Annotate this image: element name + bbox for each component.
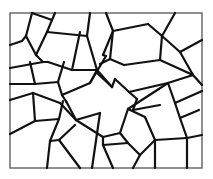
polygon-edge — [36, 55, 43, 62]
polygon-edge — [10, 62, 43, 68]
polygon-edge — [160, 36, 162, 60]
polygon-edge — [35, 119, 59, 121]
polygon-edge — [33, 93, 35, 121]
polygon-edge — [47, 20, 52, 32]
polygon-edge — [87, 36, 97, 70]
polygon-edge — [128, 143, 140, 155]
polygon-edge — [58, 82, 62, 95]
polygon-edge — [10, 41, 22, 45]
polygon-edge — [103, 145, 113, 168]
polygon-edge — [103, 133, 120, 137]
mosaic-figure — [0, 0, 213, 179]
polygon-edge — [110, 59, 124, 65]
polygon-edge — [140, 140, 155, 155]
polygon-edge — [175, 91, 202, 103]
polygon-edge — [87, 13, 90, 36]
mosaic-diagram — [0, 0, 213, 179]
polygon-edge — [32, 13, 52, 20]
polygon-edge — [145, 117, 155, 140]
polygon-edge — [33, 93, 60, 103]
polygon-edge — [113, 24, 148, 31]
polygon-edge — [47, 32, 87, 36]
polygon-edge — [30, 62, 35, 84]
polygon-edge — [187, 135, 202, 138]
polygon-edge — [148, 24, 162, 36]
polygon-edge — [120, 133, 128, 143]
polygon-edge — [26, 13, 32, 36]
polygon-edge — [133, 105, 160, 110]
polygon-edge — [180, 40, 202, 52]
polygon-edge — [103, 143, 128, 145]
polygon-edge — [180, 118, 187, 138]
polygon-edge — [52, 13, 55, 20]
polygon-edge — [193, 75, 202, 85]
polygon-edge — [48, 62, 72, 70]
polygon-edge — [115, 79, 129, 92]
polygon-edge — [120, 109, 128, 133]
polygon-edge — [124, 60, 160, 65]
polygon-edge — [112, 79, 115, 87]
polygon-edge — [26, 36, 36, 55]
polygon-edge — [10, 93, 33, 100]
polygon-edge — [97, 73, 112, 87]
polygon-edge — [162, 36, 180, 52]
polygon-edge — [72, 32, 80, 70]
polygon-edge — [129, 92, 137, 99]
polygon-edge — [62, 83, 90, 95]
polygon-edge — [168, 83, 175, 103]
polygon-edge — [59, 140, 80, 168]
polygon-edge — [50, 140, 59, 141]
polygon-edge — [162, 13, 175, 36]
polygon-edge — [47, 141, 50, 168]
polygon-edge — [175, 103, 180, 118]
polygon-edge — [155, 138, 187, 140]
polygon-edge — [168, 75, 193, 83]
polygon-edges — [10, 13, 202, 168]
polygon-edge — [92, 113, 100, 168]
polygon-edge — [36, 32, 47, 55]
polygon-edge — [50, 119, 59, 141]
polygon-edge — [180, 110, 199, 118]
polygon-edge — [133, 155, 140, 168]
polygon-edge — [10, 121, 35, 134]
polygon-edge — [76, 113, 100, 120]
polygon-edge — [35, 82, 58, 84]
polygon-edge — [106, 13, 113, 31]
polygon-edge — [59, 125, 75, 140]
